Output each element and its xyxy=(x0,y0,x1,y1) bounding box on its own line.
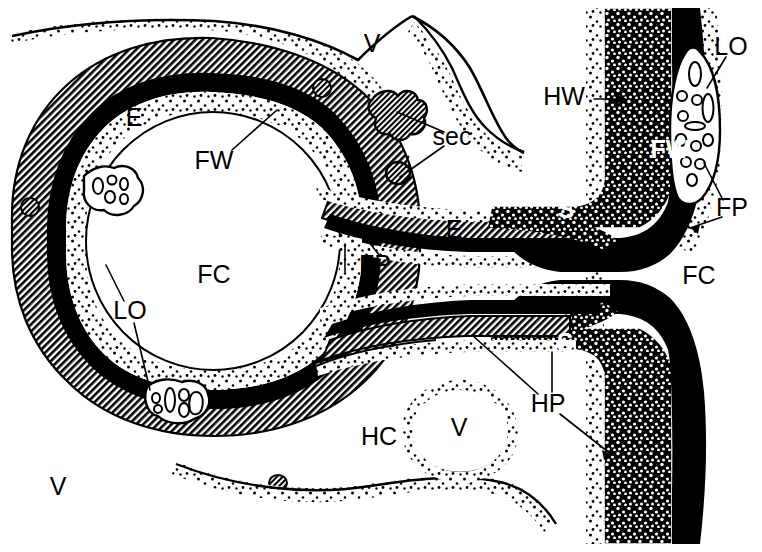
label-v-top: V xyxy=(364,29,381,57)
label-e-left: E xyxy=(126,103,143,131)
label-fc-right: FC xyxy=(682,261,715,289)
label-hp: HP xyxy=(531,389,566,417)
label-hc: HC xyxy=(361,422,397,450)
label-v-bottom: V xyxy=(50,472,67,500)
lipid-organelle-cluster-upper-left xyxy=(84,166,143,215)
label-lo-left: LO xyxy=(113,296,146,324)
label-fc-left: FC xyxy=(197,260,230,288)
label-s-upper: S xyxy=(558,195,575,223)
label-sec: sec xyxy=(433,122,472,150)
histology-figure: VEFWsecHWLOFWFPSEFPFCFCLOSHPVHCV V E FW … xyxy=(0,0,762,552)
figure-canvas: VEFWsecHWLOFWFPSEFPFCFCLOSHPVHCV xyxy=(0,0,762,552)
label-fw-left: FW xyxy=(195,146,234,174)
label-hw: HW xyxy=(543,82,585,110)
label-fw-right: FW xyxy=(651,135,690,163)
label-fp-left: FP xyxy=(359,250,391,278)
label-e-mid: E xyxy=(446,215,463,243)
label-fp-right: FP xyxy=(716,193,748,221)
label-lo-top-right: LO xyxy=(714,32,747,60)
label-s-lower: S xyxy=(557,328,574,356)
label-v-vesicle: V xyxy=(451,413,468,441)
